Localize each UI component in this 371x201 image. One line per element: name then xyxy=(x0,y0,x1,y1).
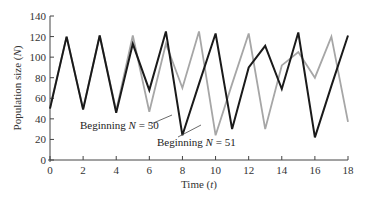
x-tick-label: 8 xyxy=(180,164,186,176)
x-tick-label: 6 xyxy=(147,164,153,176)
y-tick-label: 40 xyxy=(35,113,47,125)
y-tick-label: 80 xyxy=(35,72,47,84)
annotation-label-n51: Beginning N = 51 xyxy=(157,136,236,148)
y-axis-title: Population size (N) xyxy=(11,45,24,130)
x-axis: 024681012141618 xyxy=(47,156,354,176)
y-axis: 020406080100120140 xyxy=(30,10,55,166)
y-tick-label: 120 xyxy=(30,31,47,43)
y-tick-label: 20 xyxy=(35,133,47,145)
y-tick-label: 0 xyxy=(41,154,47,166)
x-axis-title: Time (t) xyxy=(181,178,217,191)
x-tick-label: 4 xyxy=(113,164,119,176)
x-tick-label: 16 xyxy=(309,164,321,176)
x-tick-label: 2 xyxy=(80,164,86,176)
x-tick-label: 14 xyxy=(276,164,288,176)
y-tick-label: 140 xyxy=(30,10,47,22)
annotation-label-n50: Beginning N = 50 xyxy=(80,119,159,131)
x-tick-label: 12 xyxy=(243,164,254,176)
x-tick-label: 10 xyxy=(210,164,222,176)
x-tick-label: 0 xyxy=(47,164,53,176)
population-chart: 020406080100120140 024681012141618 Begin… xyxy=(0,0,371,201)
x-tick-label: 18 xyxy=(343,164,355,176)
y-tick-label: 100 xyxy=(30,51,47,63)
y-tick-label: 60 xyxy=(35,92,47,104)
